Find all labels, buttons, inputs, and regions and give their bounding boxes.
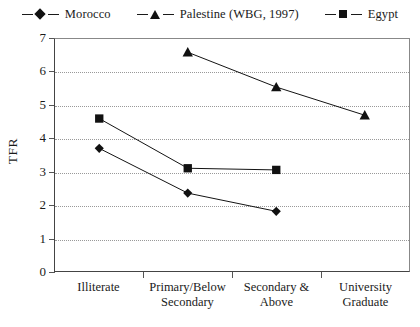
legend-label-palestine: Palestine (WBG, 1997) (180, 7, 299, 22)
chart-legend: Morocco Palestine (WBG, 1997) Egypt (0, 2, 420, 26)
square-marker (95, 114, 103, 122)
square-marker (184, 164, 192, 172)
triangle-marker-icon (150, 9, 161, 20)
legend-item-egypt[interactable]: Egypt (325, 7, 398, 22)
x-axis-category-labels: IlliteratePrimary/BelowSecondarySecondar… (54, 280, 410, 310)
diamond-marker (272, 207, 281, 216)
legend-label-morocco: Morocco (65, 7, 111, 22)
triangle-marker (360, 110, 370, 119)
x-tick-mark (321, 272, 322, 278)
square-marker-icon (338, 9, 349, 20)
legend-line-segment (22, 14, 33, 15)
square-marker (272, 166, 280, 174)
series-morocco (95, 144, 281, 216)
y-tick-label: 7 (28, 30, 46, 46)
y-tick-label: 3 (28, 164, 46, 180)
series-line (99, 148, 276, 211)
y-tick-label: 4 (28, 130, 46, 146)
plot-area (54, 38, 410, 272)
x-category-label: Secondary &Above (232, 280, 321, 310)
y-tick-label: 2 (28, 197, 46, 213)
triangle-marker (271, 82, 281, 91)
y-tick-label: 5 (28, 97, 46, 113)
x-category-label: UniversityGraduate (321, 280, 410, 310)
legend-line-segment (163, 14, 174, 15)
x-tick-mark (232, 272, 233, 278)
x-category-label: Illiterate (54, 280, 143, 310)
legend-item-palestine[interactable]: Palestine (WBG, 1997) (137, 7, 299, 22)
y-tick-label: 6 (28, 63, 46, 79)
legend-line-segment (48, 14, 59, 15)
legend-label-egypt: Egypt (368, 7, 398, 22)
legend-line-segment (137, 14, 148, 15)
x-tick-mark (143, 272, 144, 278)
series-egypt (95, 114, 280, 174)
x-category-label: Primary/BelowSecondary (143, 280, 232, 310)
triangle-marker (183, 47, 193, 56)
series-palestine-wbg-1997 (183, 47, 370, 119)
legend-item-morocco[interactable]: Morocco (22, 7, 111, 22)
tfr-by-education-chart: Morocco Palestine (WBG, 1997) Egypt TFR … (0, 0, 420, 327)
y-tick-label: 1 (28, 231, 46, 247)
diamond-marker (183, 189, 192, 198)
diamond-marker (95, 144, 104, 153)
data-series-layer (55, 39, 409, 271)
legend-line-segment (325, 14, 336, 15)
legend-line-segment (351, 14, 362, 15)
diamond-marker-icon (35, 9, 46, 20)
y-tick-label: 0 (28, 264, 46, 280)
y-tick-mark (49, 272, 55, 273)
